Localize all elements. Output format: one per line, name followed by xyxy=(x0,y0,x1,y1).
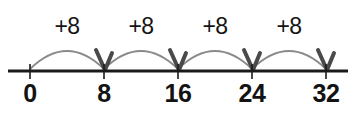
tick-label-8: 8 xyxy=(97,79,110,108)
jump-arc-8-to-16 xyxy=(104,51,178,69)
jump-label-8-to-16: +8 xyxy=(128,13,153,40)
jump-arc-0-to-8 xyxy=(30,51,104,69)
tick-label-0: 0 xyxy=(23,79,36,108)
jump-label-24-to-32: +8 xyxy=(276,13,301,40)
jump-arc-24-to-32 xyxy=(252,51,326,69)
jump-label-16-to-24: +8 xyxy=(202,13,227,40)
jump-arc-16-to-24 xyxy=(178,51,252,69)
tick-label-24: 24 xyxy=(239,79,266,108)
tick-label-32: 32 xyxy=(313,79,340,108)
tick-label-16: 16 xyxy=(165,79,192,108)
number-line-figure: +8 +8 +8 +8 0 8 16 24 32 xyxy=(0,0,357,113)
jump-label-0-to-8: +8 xyxy=(54,13,79,40)
